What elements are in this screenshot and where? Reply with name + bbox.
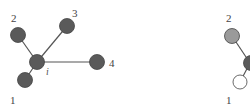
node-3: [60, 19, 75, 34]
label-node-4: 4: [109, 57, 115, 69]
label-node-2: 2: [11, 12, 17, 24]
star-graph-left: 2 3 4 1 i: [10, 7, 115, 106]
label-right-node-1: 1: [226, 94, 232, 106]
node-center-dark: [244, 56, 251, 71]
node-1: [18, 73, 33, 88]
label-node-1: 1: [10, 94, 16, 106]
node-2-gray: [225, 29, 240, 44]
node-4: [90, 55, 105, 70]
node-2: [11, 28, 26, 43]
label-right-node-2: 2: [226, 12, 232, 24]
node-i: [30, 55, 45, 70]
graph-canvas: 2 3 4 1 i 2 1: [0, 0, 250, 110]
label-node-3: 3: [72, 7, 78, 19]
label-node-i: i: [46, 66, 49, 77]
graph-right-partial: 2 1: [225, 12, 251, 106]
node-1-white: [233, 75, 247, 89]
